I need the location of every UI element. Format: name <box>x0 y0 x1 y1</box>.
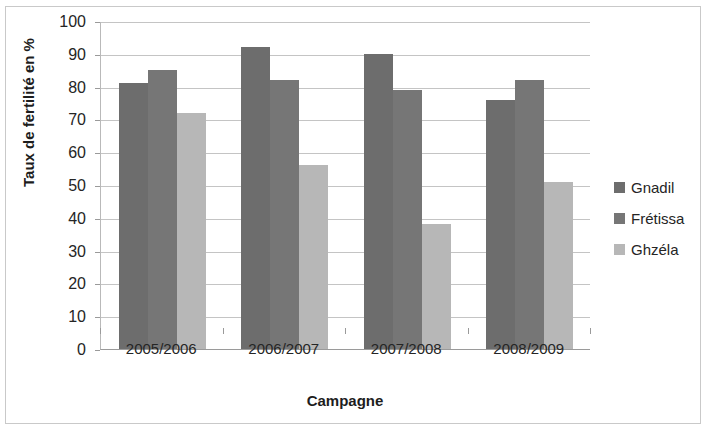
legend-item-gnadil[interactable]: Gnadil <box>614 172 702 203</box>
y-axis-title: Taux de fertilité en % <box>20 0 37 243</box>
bar-group <box>486 22 573 349</box>
y-axis: 0102030405060708090100 <box>44 0 94 380</box>
x-axis-title: Campagne <box>100 392 590 409</box>
y-tick-mark <box>95 186 100 187</box>
bar-group <box>119 22 206 349</box>
bar[interactable] <box>241 47 270 349</box>
y-tick-mark <box>95 317 100 318</box>
bar[interactable] <box>393 90 422 349</box>
bar-group <box>241 22 328 349</box>
x-tick-label: 2005/2006 <box>126 340 197 357</box>
legend-label: Ghzéla <box>631 242 679 257</box>
chart-figure: Taux de fertilité en % 01020304050607080… <box>0 0 706 438</box>
legend-swatch-icon <box>614 244 625 255</box>
plot-area <box>100 22 590 350</box>
chart-legend: GnadilFrétissaGhzéla <box>614 172 702 265</box>
x-tick-mark <box>223 328 224 334</box>
y-tick-label: 90 <box>68 47 86 63</box>
bar[interactable] <box>148 70 177 349</box>
y-tick-label: 40 <box>68 211 86 227</box>
y-tick-label: 30 <box>68 244 86 260</box>
y-tick-label: 10 <box>68 309 86 325</box>
y-tick-mark <box>95 252 100 253</box>
y-tick-label: 60 <box>68 145 86 161</box>
bar[interactable] <box>544 182 573 349</box>
y-tick-mark <box>95 219 100 220</box>
bar[interactable] <box>515 80 544 349</box>
legend-item-frétissa[interactable]: Frétissa <box>614 203 702 234</box>
y-tick-label: 50 <box>68 178 86 194</box>
bar[interactable] <box>422 224 451 349</box>
bar[interactable] <box>177 113 206 349</box>
y-tick-mark <box>95 284 100 285</box>
y-tick-mark <box>95 153 100 154</box>
y-tick-mark <box>95 120 100 121</box>
bar[interactable] <box>364 54 393 349</box>
y-tick-label: 80 <box>68 80 86 96</box>
bar-group <box>364 22 451 349</box>
x-tick-label: 2006/2007 <box>248 340 319 357</box>
y-tick-mark <box>95 350 100 351</box>
x-tick-mark <box>468 328 469 334</box>
y-tick-label: 0 <box>77 342 86 358</box>
legend-swatch-icon <box>614 182 625 193</box>
legend-label: Frétissa <box>631 211 684 226</box>
y-tick-mark <box>95 22 100 23</box>
legend-label: Gnadil <box>631 180 674 195</box>
x-tick-mark <box>100 328 101 334</box>
y-tick-label: 70 <box>68 112 86 128</box>
x-tick-mark <box>590 328 591 334</box>
bar[interactable] <box>119 83 148 349</box>
bar[interactable] <box>270 80 299 349</box>
bar[interactable] <box>486 100 515 349</box>
x-tick-mark <box>345 328 346 334</box>
bar[interactable] <box>299 165 328 349</box>
legend-swatch-icon <box>614 213 625 224</box>
legend-item-ghzéla[interactable]: Ghzéla <box>614 234 702 265</box>
x-tick-label: 2007/2008 <box>371 340 442 357</box>
y-tick-mark <box>95 88 100 89</box>
y-tick-label: 20 <box>68 276 86 292</box>
x-tick-label: 2008/2009 <box>493 340 564 357</box>
y-tick-mark <box>95 55 100 56</box>
y-tick-label: 100 <box>59 14 86 30</box>
